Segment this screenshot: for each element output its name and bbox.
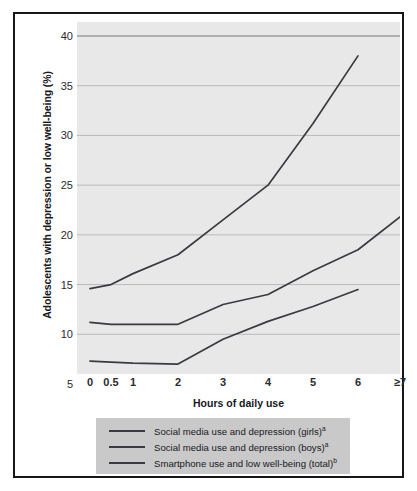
legend-footnote-marker: a — [325, 441, 329, 448]
legend-footnote-marker: a — [322, 425, 326, 432]
chart-area: Adolescents with depression or low well-… — [15, 14, 402, 476]
x-axis-tick: 2 — [175, 376, 181, 388]
x-axis-label: Hours of daily use — [77, 397, 400, 409]
y-axis-tick-group: 403530252015105 — [44, 14, 73, 476]
y-axis-tick: 20 — [47, 229, 73, 241]
legend-item[interactable]: Social media use and depression (boys)a — [96, 439, 350, 455]
legend-item-label: Social media use and depression (boys)a — [154, 441, 328, 453]
x-axis-tick-group: 00.5123456≥7 — [77, 376, 400, 396]
x-axis-tick: 6 — [355, 376, 361, 388]
y-axis-tick: 25 — [47, 179, 73, 191]
x-axis-tick: 3 — [220, 376, 226, 388]
x-axis-tick: 5 — [310, 376, 316, 388]
y-axis-tick: 35 — [47, 80, 73, 92]
plot-svg — [77, 22, 400, 374]
x-axis-tick: 4 — [265, 376, 271, 388]
y-axis-tick: 30 — [47, 129, 73, 141]
chart-legend: Social media use and depression (girls)a… — [96, 418, 350, 474]
series-line-1 — [90, 217, 400, 324]
legend-line-swatch — [109, 462, 145, 464]
series-line-0 — [90, 56, 358, 289]
legend-footnote-marker: b — [333, 457, 337, 464]
x-axis-tick: 1 — [130, 376, 136, 388]
y-axis-tick: 15 — [47, 279, 73, 291]
legend-item-label: Smartphone use and low well-being (total… — [154, 457, 337, 469]
series-line-2 — [90, 290, 358, 365]
x-axis-tick: ≥7 — [394, 376, 406, 388]
plot-area — [77, 22, 400, 374]
legend-line-swatch — [109, 446, 145, 448]
y-axis-tick: 5 — [47, 378, 73, 390]
x-axis-tick: 0 — [87, 376, 93, 388]
legend-item[interactable]: Smartphone use and low well-being (total… — [96, 455, 350, 471]
legend-item-label: Social media use and depression (girls)a — [154, 425, 326, 437]
y-axis-tick: 10 — [47, 328, 73, 340]
legend-line-swatch — [109, 430, 145, 432]
y-axis-tick: 40 — [47, 30, 73, 42]
x-axis-tick: 0.5 — [103, 376, 118, 388]
figure-frame: Adolescents with depression or low well-… — [13, 12, 404, 478]
legend-item[interactable]: Social media use and depression (girls)a — [96, 423, 350, 439]
